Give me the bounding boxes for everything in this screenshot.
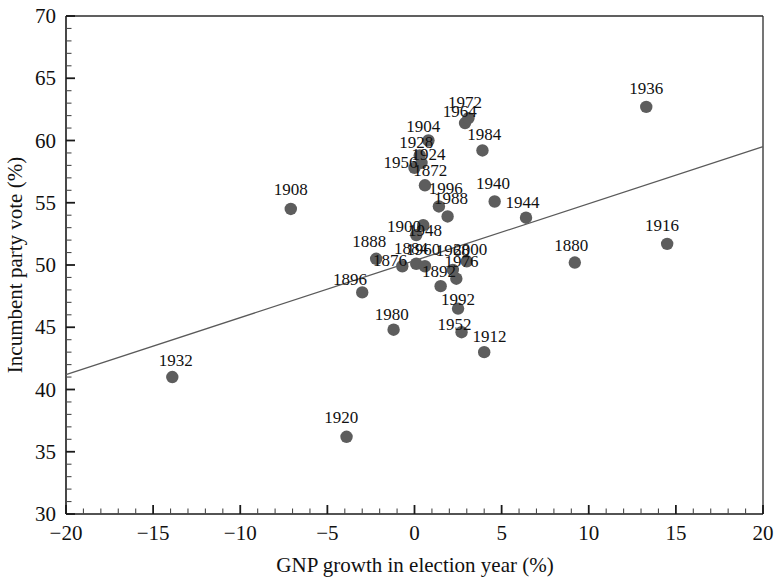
data-point-label: 1944 xyxy=(506,193,541,212)
x-tick-label: 15 xyxy=(665,521,686,545)
data-point xyxy=(441,210,453,222)
x-tick-label: −10 xyxy=(224,521,257,545)
chart-canvas: −20−15−10−505101520 303540455055606570 1… xyxy=(0,0,779,579)
data-point xyxy=(520,211,532,223)
data-point xyxy=(285,203,297,215)
data-point xyxy=(488,195,500,207)
y-axis-title: Incumbent party vote (%) xyxy=(3,157,27,373)
data-point xyxy=(661,238,673,250)
data-point-label: 1932 xyxy=(159,351,193,370)
y-tick-label: 70 xyxy=(35,4,56,28)
x-tick-label: 0 xyxy=(409,521,420,545)
x-tick-label: −15 xyxy=(137,521,170,545)
x-axis-tick-labels: −20−15−10−505101520 xyxy=(50,521,774,545)
data-point-label: 1940 xyxy=(476,174,510,193)
x-tick-label: 5 xyxy=(496,521,507,545)
x-axis-title: GNP growth in election year (%) xyxy=(276,553,553,577)
x-tick-label: 10 xyxy=(578,521,599,545)
x-axis-ticks xyxy=(66,505,763,514)
data-point-label: 1908 xyxy=(274,180,308,199)
data-point-label: 1896 xyxy=(333,270,367,289)
data-point xyxy=(340,431,352,443)
data-point-label: 1956 xyxy=(384,153,418,172)
data-point-label: 1920 xyxy=(324,408,358,427)
y-axis-ticks xyxy=(66,16,75,514)
y-tick-label: 40 xyxy=(35,378,56,402)
x-tick-label: 20 xyxy=(753,521,774,545)
data-point-label: 1912 xyxy=(472,327,506,346)
data-point-label: 1936 xyxy=(629,79,663,98)
data-point-label: 1872 xyxy=(413,161,447,180)
data-point-label: 1948 xyxy=(408,221,442,240)
data-point xyxy=(387,324,399,336)
scatter-chart: −20−15−10−505101520 303540455055606570 1… xyxy=(0,0,779,579)
data-point-label: 1996 xyxy=(429,179,463,198)
data-point xyxy=(640,101,652,113)
y-tick-label: 35 xyxy=(35,440,56,464)
y-tick-label: 60 xyxy=(35,129,56,153)
y-axis-tick-labels: 303540455055606570 xyxy=(35,4,56,526)
data-point-label: 1980 xyxy=(375,305,409,324)
data-point xyxy=(476,144,488,156)
data-point-labels: 1872187618801884188818921896190019041908… xyxy=(159,79,679,427)
y-tick-label: 55 xyxy=(35,191,56,215)
data-point-label: 1888 xyxy=(352,232,386,251)
data-point-label: 1984 xyxy=(467,125,502,144)
data-point-label: 1916 xyxy=(645,216,679,235)
data-point xyxy=(166,371,178,383)
data-point-label: 1880 xyxy=(554,236,588,255)
data-point xyxy=(569,256,581,268)
x-tick-label: −5 xyxy=(316,521,338,545)
y-tick-label: 45 xyxy=(35,315,56,339)
y-tick-label: 50 xyxy=(35,253,56,277)
y-tick-label: 30 xyxy=(35,502,56,526)
data-point-label: 2000 xyxy=(453,240,487,259)
data-point-label: 1952 xyxy=(438,315,472,334)
y-tick-label: 65 xyxy=(35,66,56,90)
data-point xyxy=(478,346,490,358)
data-point-label: 1928 xyxy=(399,133,433,152)
data-point-label: 1992 xyxy=(441,290,475,309)
data-point-label: 1972 xyxy=(448,93,482,112)
